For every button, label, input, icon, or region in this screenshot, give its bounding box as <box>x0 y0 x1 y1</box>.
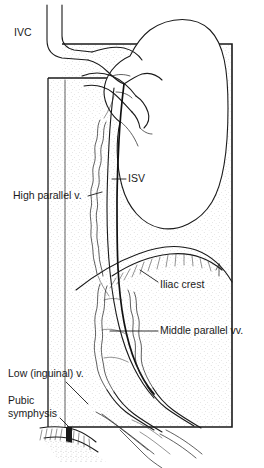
diagram-canvas: IVC ISV High parallel v. Iliac crest Mid… <box>0 0 264 468</box>
label-iliac-crest: Iliac crest <box>160 278 204 290</box>
label-ivc: IVC <box>14 26 32 38</box>
label-pubic-symphysis-line2: symphysis <box>8 407 57 419</box>
label-isv: ISV <box>128 172 145 184</box>
label-pubic-symphysis-line1: Pubic <box>8 394 34 406</box>
anatomical-figure: IVC ISV High parallel v. Iliac crest Mid… <box>0 0 264 468</box>
pubic-symphysis <box>40 427 106 462</box>
label-low-inguinal-vein: Low (inguinal) v. <box>8 367 84 379</box>
label-middle-parallel-veins: Middle parallel vv. <box>160 324 243 336</box>
label-high-parallel-vein: High parallel v. <box>13 189 82 201</box>
